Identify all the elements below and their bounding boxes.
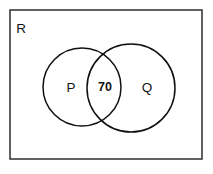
intersection-count-label: 70 (98, 80, 112, 94)
venn-diagram-figure: R P 70 Q (0, 0, 213, 174)
venn-diagram-canvas: R P 70 Q (0, 0, 213, 174)
set-q-label: Q (142, 80, 153, 95)
universal-set-label: R (16, 21, 26, 36)
set-p-label: P (66, 80, 75, 95)
